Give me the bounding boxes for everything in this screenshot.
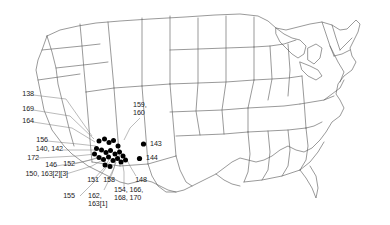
map-label-164: 164 bbox=[8, 117, 34, 125]
data-point-markers bbox=[92, 137, 146, 170]
map-label-152: 152 bbox=[47, 160, 75, 168]
map-figure: 138 169 164 156 140, 142 172 146 152 150… bbox=[0, 0, 390, 225]
state-boundaries bbox=[36, 14, 360, 198]
map-label-156: 156 bbox=[20, 136, 48, 144]
map-label-169: 169 bbox=[8, 105, 34, 113]
map-label-159-160: 159, 160 bbox=[133, 101, 161, 117]
map-label-158: 158 bbox=[98, 176, 120, 184]
map-label-138: 138 bbox=[8, 90, 34, 98]
map-label-155: 155 bbox=[58, 192, 80, 200]
map-label-143: 143 bbox=[150, 140, 174, 148]
map-label-148: 148 bbox=[130, 176, 152, 184]
map-label-150-163-2-3: 150, 163[2][3] bbox=[10, 170, 68, 178]
map-label-154-166-168-170: 154, 166, 168, 170 bbox=[114, 186, 168, 202]
map-label-140-142: 140, 142 bbox=[14, 145, 63, 153]
map-label-144: 144 bbox=[146, 154, 170, 162]
